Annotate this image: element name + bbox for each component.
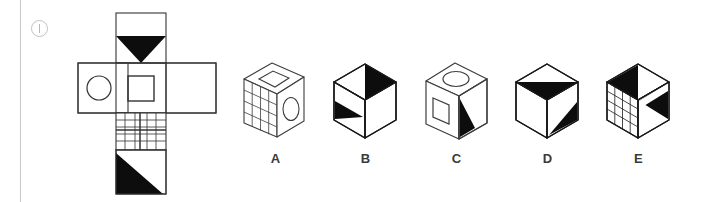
net-face-grid xyxy=(116,113,166,150)
net-face-top xyxy=(116,13,166,63)
option-c-label: C xyxy=(409,151,504,166)
option-b[interactable]: B xyxy=(318,55,413,175)
option-a[interactable]: A xyxy=(228,55,323,175)
cube-net-svg xyxy=(60,8,230,198)
left-margin-rule xyxy=(20,0,21,202)
net-row-middle xyxy=(78,63,216,113)
circled-i-icon xyxy=(31,20,48,37)
option-b-label: B xyxy=(318,151,413,166)
circled-i-stem xyxy=(39,24,40,33)
option-d[interactable]: D xyxy=(500,55,595,175)
option-a-cube xyxy=(228,55,323,150)
net-face-right xyxy=(166,63,216,113)
square-outline xyxy=(128,76,154,101)
option-c[interactable]: C xyxy=(409,55,504,175)
cube-net xyxy=(60,8,230,198)
option-e-cube xyxy=(591,55,686,150)
option-d-label: D xyxy=(500,151,595,166)
net-face-bottom xyxy=(116,150,166,194)
option-e[interactable]: E xyxy=(591,55,686,175)
puzzle-page: A B xyxy=(0,0,701,202)
option-a-label: A xyxy=(228,151,323,166)
option-d-cube xyxy=(500,55,595,150)
option-e-label: E xyxy=(591,151,686,166)
net-face-left xyxy=(78,63,128,113)
option-c-cube xyxy=(409,55,504,150)
option-b-cube xyxy=(318,55,413,150)
